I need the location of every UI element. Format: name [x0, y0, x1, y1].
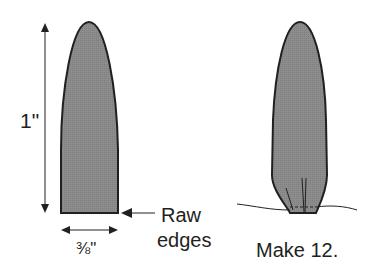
- raw-edges-label-line2: edges: [157, 229, 212, 251]
- arrow-up-icon: [41, 23, 49, 32]
- left-petal-shape: [61, 22, 118, 213]
- make-count-caption: Make 12.: [256, 239, 338, 261]
- arrow-right-icon: [109, 226, 118, 234]
- raw-edges-label-line1: Raw: [161, 204, 202, 226]
- width-dimension-arrow: [61, 226, 118, 234]
- height-dimension-arrow: [41, 23, 49, 213]
- arrow-down-icon: [41, 204, 49, 213]
- width-label: ⅜": [76, 239, 96, 258]
- arrow-left-icon: [61, 226, 70, 234]
- gathered-petal-shape: [272, 22, 327, 213]
- right-gathered-petal: [272, 22, 327, 213]
- raw-edges-callout-arrow: [121, 208, 155, 218]
- arrow-left-icon: [121, 208, 132, 218]
- left-petal-piece: [61, 22, 118, 213]
- pattern-diagram: 1" ⅜" Raw edges Make 12.: [0, 0, 378, 269]
- height-label: 1": [20, 109, 39, 132]
